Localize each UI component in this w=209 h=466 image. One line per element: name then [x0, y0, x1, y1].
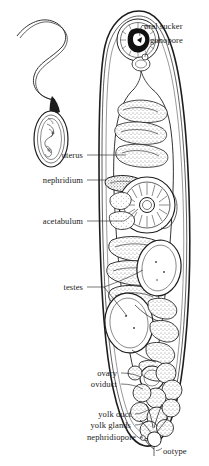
label-acetabulum: acetabulum — [0, 217, 83, 226]
anatomy-drawing — [0, 0, 209, 466]
trematode-anatomy-figure: oral sucker gonopore uterus nephridium a… — [0, 0, 209, 466]
label-testes: testes — [0, 283, 83, 292]
label-yolk-duct: yolk duct — [0, 410, 131, 419]
cercaria-inset — [17, 20, 68, 167]
label-ovary: ovary — [0, 369, 117, 378]
uterus-coils — [115, 100, 168, 167]
label-yolk-glands: yolk glands — [0, 421, 131, 430]
label-uterus: uterus — [0, 151, 83, 160]
label-nephridium: nephridium — [0, 176, 83, 185]
label-gonopore: gonopore — [150, 36, 183, 45]
label-oral-sucker: oral sucker — [144, 22, 183, 31]
label-ootype: ootype — [163, 447, 187, 456]
label-nephridiopore: nephridiopore — [0, 433, 136, 442]
label-oviduct: oviduct — [0, 380, 117, 389]
